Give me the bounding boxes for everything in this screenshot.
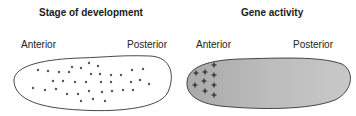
nucleus-dot — [80, 67, 82, 69]
nucleus-dot — [100, 81, 102, 83]
nucleus-dot — [88, 62, 90, 64]
nucleus-dot — [71, 66, 73, 68]
nucleus-dot — [88, 90, 90, 92]
nucleus-dot — [99, 73, 101, 75]
nucleus-dot — [92, 98, 94, 100]
nucleus-dot — [80, 100, 82, 102]
nucleus-dot — [58, 71, 60, 73]
embryo-outline-1 — [14, 56, 171, 111]
nucleus-dot — [139, 79, 141, 81]
nucleus-dot — [104, 100, 106, 102]
nucleus-dot — [101, 91, 103, 93]
nucleus-dot — [32, 87, 34, 89]
nucleus-dot — [62, 80, 64, 82]
nucleus-dot — [110, 74, 112, 76]
nucleus-dot — [97, 65, 99, 67]
nucleus-dot — [90, 73, 92, 75]
nucleus-dot — [68, 71, 70, 73]
nucleus-dot — [52, 80, 54, 82]
nucleus-dot — [77, 93, 79, 95]
nucleus-dot — [111, 90, 113, 92]
embryo-outline-2 — [187, 58, 351, 108]
nucleus-dot — [132, 89, 134, 91]
nucleus-dot — [37, 69, 39, 71]
nucleus-dot — [148, 83, 150, 85]
nucleus-dot — [122, 89, 124, 91]
nucleus-dot — [66, 93, 68, 95]
nucleus-dot — [74, 81, 76, 83]
nucleus-dot — [131, 69, 133, 71]
nucleus-dot — [55, 88, 57, 90]
nucleus-dot — [85, 81, 87, 83]
nucleus-dot — [47, 70, 49, 72]
nucleus-dot — [130, 81, 132, 83]
nucleus-dot — [120, 74, 122, 76]
diagram-canvas — [0, 0, 356, 116]
nucleus-dot — [44, 89, 46, 91]
nucleus-dot — [142, 68, 144, 70]
nucleus-dot — [110, 81, 112, 83]
